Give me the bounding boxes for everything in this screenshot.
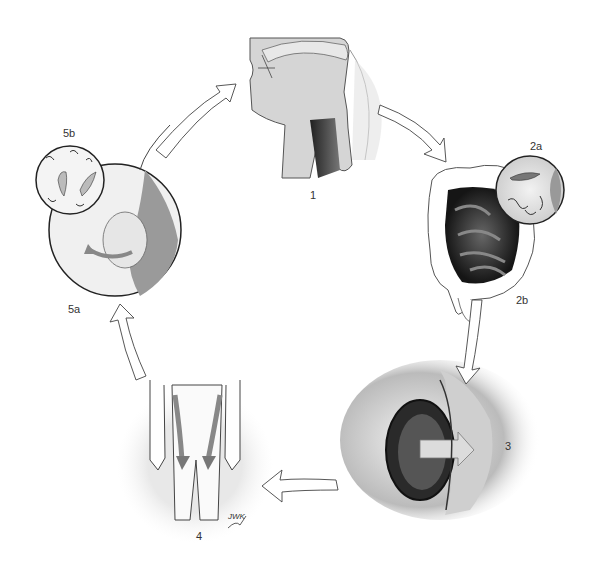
- label-stage-1: 1: [310, 189, 316, 201]
- stage-5b-magnified-inset: [36, 146, 104, 214]
- arrow-1-to-2: [378, 105, 446, 162]
- stage-4-legs-illustration: [117, 380, 273, 543]
- label-stage-5a: 5a: [68, 303, 80, 315]
- arrow-3-to-4: [262, 470, 338, 502]
- arrow-5-to-1: [156, 84, 236, 158]
- label-stage-4: 4: [196, 530, 202, 542]
- life-cycle-diagram: 1 2a 2b 3 4 5a 5b JWK: [0, 0, 603, 582]
- label-stage-2b: 2b: [516, 294, 528, 306]
- stage-2a-magnified-inset: [496, 156, 564, 224]
- stage-1-throat-illustration: [250, 38, 382, 178]
- artist-signature: JWK: [228, 512, 245, 521]
- label-stage-5b: 5b: [63, 127, 75, 139]
- label-stage-3: 3: [505, 440, 511, 452]
- arrow-4-to-5: [110, 304, 146, 380]
- diagram-artwork: [0, 0, 603, 582]
- label-stage-2a: 2a: [530, 140, 542, 152]
